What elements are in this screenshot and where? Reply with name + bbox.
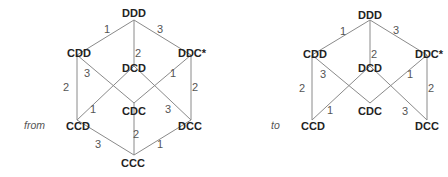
node-cdc: CDC xyxy=(358,105,382,117)
edge-weight-label: 2 xyxy=(63,81,69,93)
caption-to: to xyxy=(271,119,280,131)
edge-weight-label: 1 xyxy=(340,25,346,37)
node-dcd: DCD xyxy=(358,62,382,74)
node-dcc: DCC xyxy=(178,120,202,132)
edge-weight-label: 3 xyxy=(95,138,101,150)
edge-weight-label: 2 xyxy=(299,82,305,94)
edge-weight-label: 1 xyxy=(104,23,110,35)
edge-weight-label: 3 xyxy=(165,103,171,115)
node-ccd: CCD xyxy=(66,120,90,132)
edge-weight-label: 2 xyxy=(135,47,141,59)
edge-weight-label: 2 xyxy=(133,128,139,140)
node-ddd: DDD xyxy=(122,7,146,19)
edge-weight-label: 3 xyxy=(320,68,326,80)
to-lattice: 123231312DDDCDDDDC*DCDCDCCCDDCCto xyxy=(271,9,444,132)
edge-weight-label: 2 xyxy=(371,48,377,60)
edge-weight-label: 1 xyxy=(90,103,96,115)
node-cdd: CDD xyxy=(67,47,91,59)
node-ccd: CCD xyxy=(301,120,325,132)
edge-weight-label: 1 xyxy=(157,138,163,150)
caption-from: from xyxy=(24,119,45,131)
edge-weight-label: 3 xyxy=(402,105,408,117)
diagram-canvas: 123231312321DDDCDDDDC*DCDCDCCCDDCCCCCfro… xyxy=(0,0,448,177)
node-cdd: CDD xyxy=(303,48,327,60)
edge-weight-label: 1 xyxy=(170,67,176,79)
node-ddd: DDD xyxy=(358,9,382,21)
node-ddc: DDC* xyxy=(415,48,444,60)
node-ddc: DDC* xyxy=(178,47,207,59)
node-cdc: CDC xyxy=(122,105,146,117)
edge-weight-label: 3 xyxy=(84,67,90,79)
from-lattice: 123231312321DDDCDDDDC*DCDCDCCCDDCCCCCfro… xyxy=(24,7,207,169)
node-dcd: DCD xyxy=(122,62,146,74)
node-ccc: CCC xyxy=(121,157,145,169)
edge-weight-label: 2 xyxy=(192,81,198,93)
edge-weight-label: 3 xyxy=(393,24,399,36)
edge-weight-label: 3 xyxy=(157,23,163,35)
edge-weight-label: 1 xyxy=(407,68,413,80)
edge-weight-label: 2 xyxy=(428,82,434,94)
edge-weight-label: 1 xyxy=(327,104,333,116)
node-dcc: DCC xyxy=(415,120,439,132)
